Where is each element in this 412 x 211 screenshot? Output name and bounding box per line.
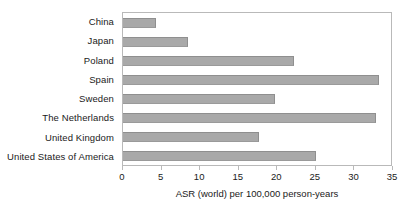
x-tick-label: 25 (310, 171, 321, 182)
x-tick-label: 10 (194, 171, 205, 182)
x-tick-mark (353, 166, 354, 170)
x-tick-mark (315, 166, 316, 170)
bar-china[interactable] (123, 18, 156, 28)
category-label-sweden: Sweden (79, 93, 118, 104)
category-label-united-states: United States of America (7, 151, 118, 162)
x-tick-mark (276, 166, 277, 170)
category-label-china: China (89, 16, 118, 27)
bar-netherlands[interactable] (123, 113, 376, 123)
value-axis: 05101520253035 (122, 166, 392, 188)
bar-row (123, 127, 391, 146)
x-tick-mark (238, 166, 239, 170)
bar-japan[interactable] (123, 37, 188, 47)
x-tick-label: 5 (158, 171, 163, 182)
bar-row (123, 70, 391, 89)
bar-row (123, 146, 391, 165)
bar-row (123, 89, 391, 108)
x-tick-mark (392, 166, 393, 170)
bar-united-states[interactable] (123, 151, 316, 161)
bar-chart-figure: China Japan Poland Spain Sweden The Neth… (0, 0, 412, 211)
x-tick-mark (161, 166, 162, 170)
x-axis-title: ASR (world) per 100,000 person-years (122, 188, 392, 200)
bar-poland[interactable] (123, 56, 294, 66)
category-label-spain: Spain (89, 74, 118, 85)
bars-layer (123, 13, 391, 165)
x-tick-label: 0 (119, 171, 124, 182)
bar-row (123, 13, 391, 32)
bar-united-kingdom[interactable] (123, 132, 259, 142)
x-tick-mark (199, 166, 200, 170)
category-label-japan: Japan (88, 35, 118, 46)
x-tick-label: 35 (387, 171, 398, 182)
category-label-netherlands: The Netherlands (42, 112, 118, 123)
category-axis: China Japan Poland Spain Sweden The Neth… (0, 12, 118, 166)
x-tick-label: 15 (232, 171, 243, 182)
category-label-poland: Poland (84, 55, 118, 66)
bar-row (123, 51, 391, 70)
bar-row (123, 32, 391, 51)
x-tick-label: 30 (348, 171, 359, 182)
bar-sweden[interactable] (123, 94, 275, 104)
bar-row (123, 108, 391, 127)
x-tick-mark (122, 166, 123, 170)
plot-area (122, 12, 392, 166)
x-tick-label: 20 (271, 171, 282, 182)
category-label-united-kingdom: United Kingdom (45, 132, 118, 143)
bar-spain[interactable] (123, 75, 379, 85)
